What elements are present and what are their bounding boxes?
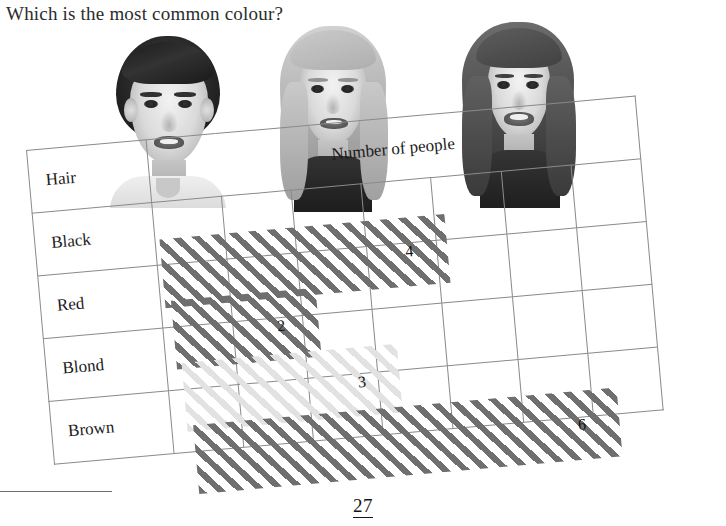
row-label-cell-red: Red [38, 265, 163, 338]
cell-brown-5 [448, 360, 524, 429]
cell-brown-4 [378, 366, 454, 435]
row-label-red: Red [56, 293, 85, 315]
cell-red-6 [506, 228, 582, 297]
cell-red-3 [297, 247, 373, 316]
cell-blond-6 [512, 291, 588, 360]
eye-left [144, 100, 158, 108]
eye-right [341, 85, 354, 93]
ear-left [124, 98, 138, 122]
cell-red-1 [157, 259, 233, 328]
eyebrow-right [524, 74, 543, 78]
eyebrow-right [174, 92, 196, 97]
page-number-value: 27 [353, 495, 373, 518]
cell-brown-7 [588, 347, 664, 416]
bottom-rule [0, 491, 112, 492]
eye-right [178, 100, 192, 108]
cell-black-3 [291, 184, 367, 253]
row-label-cell-black: Black [32, 203, 157, 276]
cell-blond-5 [442, 297, 518, 366]
cell-red-5 [437, 234, 513, 303]
hair-colour-chart: Hair Number of people Black Red [26, 96, 666, 494]
cell-brown-3 [308, 372, 384, 441]
row-label-blond: Blond [62, 355, 105, 379]
cell-blond-7 [582, 284, 658, 353]
eye-left [311, 85, 324, 93]
cell-black-6 [501, 165, 577, 234]
corner-header-cell: Hair [27, 140, 152, 213]
cell-brown-6 [518, 353, 594, 422]
bar-value-brown: 6 [577, 416, 587, 435]
page-title: Which is the most common colour? [6, 3, 283, 25]
bar-value-blond: 3 [357, 372, 367, 391]
chart-grid: Hair Number of people Black Red [26, 96, 664, 465]
cell-black-2 [221, 190, 297, 259]
cell-red-2 [227, 253, 303, 322]
nose [325, 94, 341, 114]
page-number: 27 [0, 495, 726, 517]
row-label-black: Black [50, 230, 91, 253]
cell-black-5 [431, 171, 507, 240]
cell-brown-2 [238, 378, 314, 447]
nose [160, 110, 178, 132]
row-label-brown: Brown [67, 417, 115, 441]
cell-blond-2 [232, 316, 308, 385]
row-label-cell-blond: Blond [43, 328, 168, 401]
cell-blond-3 [302, 309, 378, 378]
cell-blond-1 [162, 322, 238, 391]
cell-blond-4 [372, 303, 448, 372]
eye-right [526, 81, 539, 89]
eyebrow-left [308, 78, 328, 82]
bar-value-black: 4 [405, 242, 415, 261]
eye-left [497, 81, 510, 89]
cell-red-7 [576, 222, 652, 291]
row-label-cell-brown: Brown [49, 391, 174, 464]
corner-header-label: Hair [45, 168, 77, 191]
cell-black-4 [361, 178, 437, 247]
cell-black-1 [151, 196, 227, 265]
cell-black-7 [571, 159, 647, 228]
eyebrow-left [140, 92, 162, 97]
eyebrow-right [338, 78, 358, 82]
ear-right [200, 98, 214, 122]
bar-value-red: 2 [276, 317, 286, 336]
cell-brown-1 [168, 385, 244, 454]
eyebrow-left [495, 74, 514, 78]
